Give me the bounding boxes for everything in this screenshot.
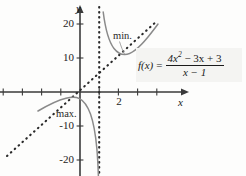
min-leader-line	[120, 42, 125, 55]
formula-denominator: x − 1	[181, 66, 208, 79]
max-annotation: max.	[56, 108, 77, 119]
y-tick-label-neg20: -20	[52, 153, 74, 165]
y-tick-label-10: 10	[56, 51, 74, 63]
y-tick-label-20: 20	[56, 17, 74, 29]
y-tick-label-neg10: -10	[52, 119, 74, 131]
formula-numerator: 4x2 − 3x + 3	[166, 51, 224, 65]
formula-function-name: f(x)	[138, 59, 153, 71]
x-axis	[0, 88, 189, 95]
x-axis-label: x	[178, 96, 183, 108]
x-tick-label-2: 2	[113, 95, 125, 107]
formula-equals: =	[156, 59, 162, 71]
slant-asymptote	[7, 21, 157, 156]
function-graph-figure: 20 10 -10 -20 2 y x min. max. f(x) = 4x2…	[0, 0, 246, 176]
formula-fraction: 4x2 − 3x + 3 x − 1	[166, 51, 224, 79]
y-axis-label: y	[76, 2, 81, 14]
plot-canvas	[0, 0, 246, 176]
function-formula: f(x) = 4x2 − 3x + 3 x − 1	[136, 48, 242, 82]
min-annotation: min.	[113, 30, 132, 41]
